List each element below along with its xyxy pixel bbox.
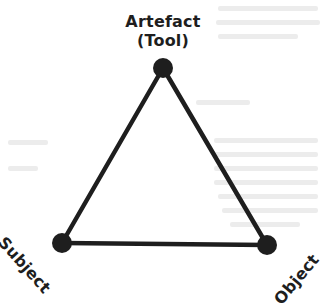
node-object bbox=[257, 235, 277, 255]
node-subject bbox=[52, 233, 72, 253]
artefact-tool-label: Artefact (Tool) bbox=[113, 12, 213, 50]
triangle-edges bbox=[62, 68, 267, 245]
edge-artefact-object bbox=[163, 68, 267, 245]
node-artefact bbox=[153, 58, 173, 78]
edge-artefact-subject bbox=[62, 68, 163, 243]
edge-subject-object bbox=[62, 243, 267, 245]
artefact-label-line2: (Tool) bbox=[113, 31, 213, 50]
artefact-label-line1: Artefact bbox=[113, 12, 213, 31]
